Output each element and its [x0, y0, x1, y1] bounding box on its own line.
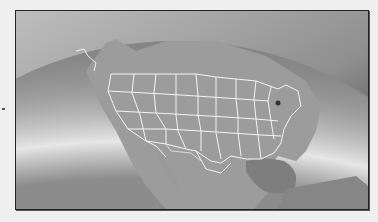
edge-mark: [2, 108, 5, 110]
globe-map: [16, 11, 368, 209]
location-marker: [276, 101, 281, 106]
map-frame: [15, 10, 369, 210]
